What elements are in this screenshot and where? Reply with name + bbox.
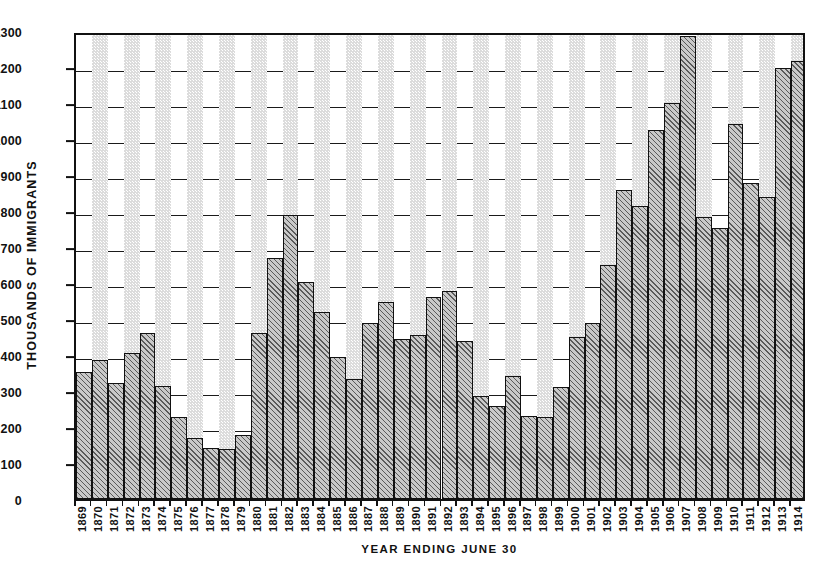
gridline-800: [330, 215, 346, 216]
x-tick-label-1872: 1872: [124, 506, 136, 532]
bar-1912: [759, 197, 775, 499]
gridline-1200: [457, 71, 473, 72]
x-tick-mark-1887: [360, 501, 362, 506]
gridline-600: [362, 287, 378, 288]
gridline-1200: [585, 71, 601, 72]
gridline-500: [140, 323, 156, 324]
gridline-1100: [553, 107, 569, 108]
gridline-1100: [108, 107, 124, 108]
x-tick-label-1888: 1888: [378, 506, 390, 532]
x-tick-mark-1885: [328, 501, 330, 506]
gridline-1200: [330, 71, 346, 72]
gridline-1100: [457, 107, 473, 108]
gridline-800: [457, 215, 473, 216]
plot-area: [74, 33, 805, 501]
gridline-700: [521, 251, 537, 252]
gridline-1100: [203, 107, 219, 108]
x-tick-label-1877: 1877: [204, 506, 216, 532]
y-tick-label-200: 200: [0, 422, 22, 436]
gridline-700: [140, 251, 156, 252]
x-tick-label-1885: 1885: [331, 506, 343, 532]
x-tick-label-1900: 1900: [569, 506, 581, 532]
gridline-400: [553, 359, 569, 360]
bar-1892: [442, 291, 458, 499]
x-tick-label-1890: 1890: [410, 506, 422, 532]
x-tick-label-1893: 1893: [458, 506, 470, 532]
gridline-700: [171, 251, 187, 252]
gridline-700: [362, 251, 378, 252]
x-tick-label-1894: 1894: [474, 506, 486, 532]
x-tick-mark-1905: [646, 501, 648, 506]
gridline-600: [426, 287, 442, 288]
gridline-1000: [140, 143, 156, 144]
bar-1897: [521, 416, 537, 499]
x-tick-label-1911: 1911: [744, 506, 756, 531]
bar-1914: [791, 61, 805, 499]
gridline-600: [171, 287, 187, 288]
gridline-500: [330, 323, 346, 324]
gridline-1000: [426, 143, 442, 144]
gridline-600: [521, 287, 537, 288]
gridline-500: [203, 323, 219, 324]
gridline-700: [585, 251, 601, 252]
x-tick-label-1871: 1871: [108, 506, 120, 532]
x-tick-label-1898: 1898: [537, 506, 549, 532]
y-tick-label-300: 300: [0, 386, 22, 400]
x-tick-label-1897: 1897: [521, 506, 533, 532]
x-tick-label-1902: 1902: [601, 506, 613, 532]
x-tick-label-1910: 1910: [728, 506, 740, 532]
bar-1881: [267, 258, 283, 499]
gridline-1000: [585, 143, 601, 144]
gridline-900: [489, 179, 505, 180]
gridline-500: [521, 323, 537, 324]
gridline-800: [394, 215, 410, 216]
bar-1869: [76, 372, 92, 499]
immigration-bar-chart: THOUSANDS OF IMMIGRANTS 0100200300400500…: [0, 0, 834, 574]
x-tick-mark-1877: [201, 501, 203, 506]
x-tick-mark-1907: [678, 501, 680, 506]
x-tick-label-1889: 1889: [394, 506, 406, 532]
x-tick-mark-1897: [519, 501, 521, 506]
gridline-600: [489, 287, 505, 288]
x-tick-label-1878: 1878: [219, 506, 231, 532]
x-tick-mark-1904: [630, 501, 632, 506]
gridline-700: [553, 251, 569, 252]
gridline-300: [489, 395, 505, 396]
gridline-1200: [203, 71, 219, 72]
gridline-700: [203, 251, 219, 252]
x-tick-label-1908: 1908: [696, 506, 708, 532]
x-axis-title: YEAR ENDING JUNE 30: [74, 543, 805, 555]
gridline-1000: [267, 143, 283, 144]
y-tick-label-800: 800: [0, 206, 22, 220]
bar-1893: [457, 341, 473, 499]
gridline-1200: [171, 71, 187, 72]
x-tick-mark-1870: [90, 501, 92, 506]
y-tick-label-100: 100: [0, 458, 22, 472]
x-tick-label-1904: 1904: [633, 506, 645, 532]
x-tick-mark-1871: [106, 501, 108, 506]
x-tick-mark-1899: [551, 501, 553, 506]
gridline-1000: [712, 143, 728, 144]
gridline-900: [235, 179, 251, 180]
gridline-500: [489, 323, 505, 324]
gridline-1200: [108, 71, 124, 72]
gridline-1100: [362, 107, 378, 108]
gridline-700: [76, 251, 92, 252]
bar-1900: [569, 337, 585, 499]
x-tick-label-1905: 1905: [649, 506, 661, 532]
y-tick-label-900: 900: [0, 170, 22, 184]
gridline-500: [553, 323, 569, 324]
bar-1901: [585, 323, 601, 499]
x-tick-mark-1892: [440, 501, 442, 506]
x-tick-mark-1898: [535, 501, 537, 506]
x-tick-mark-1890: [408, 501, 410, 506]
bar-1871: [108, 383, 124, 499]
bar-1875: [171, 417, 187, 499]
gridline-400: [521, 359, 537, 360]
bar-1913: [775, 68, 791, 499]
x-tick-label-1913: 1913: [776, 506, 788, 532]
bar-1885: [330, 357, 346, 499]
x-tick-label-1892: 1892: [442, 506, 454, 532]
gridline-1000: [394, 143, 410, 144]
x-tick-mark-1874: [153, 501, 155, 506]
